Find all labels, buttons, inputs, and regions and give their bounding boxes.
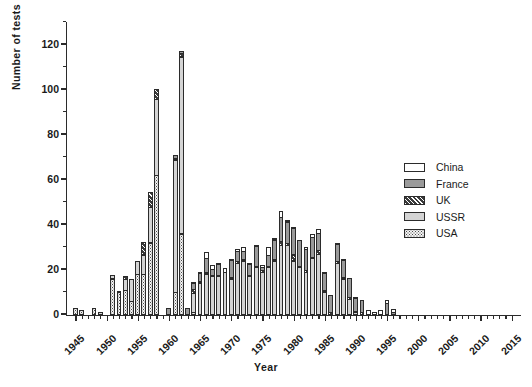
legend-label: China bbox=[436, 161, 463, 173]
x-tick-minor bbox=[300, 316, 301, 319]
bar-segment-ussr bbox=[129, 279, 134, 302]
x-tick-minor bbox=[94, 316, 95, 319]
bar-segment-ussr bbox=[247, 276, 252, 314]
legend-item-usa[interactable]: USA bbox=[404, 225, 522, 242]
x-tick-minor bbox=[468, 316, 469, 319]
bar-stack bbox=[254, 243, 259, 315]
bar-segment-ussr bbox=[291, 261, 296, 315]
legend-item-uk[interactable]: UK bbox=[404, 192, 522, 209]
bar-stack bbox=[241, 245, 246, 315]
x-tick-minor bbox=[462, 316, 463, 319]
bar-segment-france bbox=[335, 244, 340, 262]
bar-segment-uk bbox=[328, 312, 333, 314]
x-tick-minor bbox=[244, 316, 245, 319]
bar-stack bbox=[385, 299, 390, 315]
legend-label: France bbox=[436, 178, 469, 190]
x-tick-minor bbox=[82, 316, 83, 319]
bar-segment-ussr bbox=[191, 293, 196, 313]
bar-stack bbox=[335, 240, 340, 314]
legend-item-ussr[interactable]: USSR bbox=[404, 209, 522, 226]
x-tick-minor bbox=[312, 316, 313, 319]
bar-stack bbox=[279, 209, 284, 315]
x-tick-minor bbox=[456, 316, 457, 319]
x-tick-label: 1990 bbox=[342, 332, 367, 357]
bar-segment-ussr bbox=[279, 245, 284, 315]
bar-stack bbox=[310, 231, 315, 314]
bar-segment-ussr bbox=[254, 267, 259, 314]
bar-segment-ussr bbox=[335, 263, 340, 315]
x-tick-major bbox=[480, 316, 481, 321]
x-tick-label: 1995 bbox=[373, 332, 398, 357]
x-tick-minor bbox=[225, 316, 226, 319]
x-tick-major bbox=[169, 316, 170, 321]
y-tick-label: 120 bbox=[41, 39, 59, 50]
legend-swatch-france bbox=[404, 179, 425, 188]
bar-segment-france bbox=[229, 260, 234, 278]
chart-legend: ChinaFranceUKUSSRUSA bbox=[404, 159, 522, 242]
bar-segment-ussr bbox=[322, 292, 327, 315]
bar-stack bbox=[148, 191, 153, 315]
legend-swatch-ussr bbox=[404, 212, 425, 221]
bar-segment-usa bbox=[154, 175, 159, 315]
bar-segment-france bbox=[185, 308, 190, 315]
x-tick-major bbox=[231, 316, 232, 321]
bar-stack bbox=[191, 279, 196, 315]
bar-segment-usa bbox=[148, 243, 153, 315]
bar-stack bbox=[204, 249, 209, 314]
x-tick-minor bbox=[412, 316, 413, 319]
y-tick-minor bbox=[63, 66, 66, 67]
y-tick-major bbox=[61, 313, 66, 314]
bar-stack bbox=[141, 240, 146, 314]
bar-segment-ussr bbox=[210, 276, 215, 314]
x-tick-minor bbox=[331, 316, 332, 319]
bar-segment-usa bbox=[129, 301, 134, 315]
bar-segment-ussr bbox=[260, 272, 265, 315]
x-tick-minor bbox=[281, 316, 282, 319]
y-tick-major bbox=[61, 223, 66, 224]
bar-segment-china bbox=[372, 312, 377, 314]
x-tick-minor bbox=[250, 316, 251, 319]
bar-stack bbox=[235, 247, 240, 315]
bar-stack bbox=[372, 312, 377, 314]
x-tick-major bbox=[294, 316, 295, 321]
bar-segment-ussr bbox=[341, 279, 346, 315]
bar-segment-ussr bbox=[148, 207, 153, 243]
bar-segment-france bbox=[310, 237, 315, 257]
bar-segment-usa bbox=[110, 279, 115, 315]
legend-item-china[interactable]: China bbox=[404, 159, 522, 176]
x-tick-minor bbox=[368, 316, 369, 319]
x-tick-minor bbox=[343, 316, 344, 319]
bar-segment-ussr bbox=[204, 274, 209, 315]
x-tick-minor bbox=[393, 316, 394, 319]
x-tick-minor bbox=[269, 316, 270, 319]
bar-segment-ussr bbox=[316, 254, 321, 315]
bar-segment-france bbox=[297, 240, 302, 267]
legend-item-france[interactable]: France bbox=[404, 176, 522, 193]
x-tick-minor bbox=[156, 316, 157, 319]
y-tick-minor bbox=[63, 246, 66, 247]
x-tick-label: 1955 bbox=[124, 332, 149, 357]
y-tick-minor bbox=[63, 291, 66, 292]
x-tick-minor bbox=[125, 316, 126, 319]
bar-stack bbox=[229, 256, 234, 315]
x-tick-minor bbox=[499, 316, 500, 319]
x-tick-minor bbox=[375, 316, 376, 319]
x-tick-label: 1980 bbox=[280, 332, 305, 357]
x-tick-major bbox=[449, 316, 450, 321]
bar-stack bbox=[123, 274, 128, 315]
bar-stack bbox=[98, 312, 103, 314]
x-tick-minor bbox=[350, 316, 351, 319]
bar-stack bbox=[360, 299, 365, 315]
x-tick-minor bbox=[256, 316, 257, 319]
x-tick-minor bbox=[100, 316, 101, 319]
x-tick-minor bbox=[287, 316, 288, 319]
x-tick-major bbox=[356, 316, 357, 321]
x-tick-minor bbox=[212, 316, 213, 319]
x-tick-minor bbox=[399, 316, 400, 319]
bar-stack bbox=[216, 261, 221, 315]
chart-figure: Number of tests Year 020406080100120 194… bbox=[0, 0, 532, 387]
bar-segment-ussr bbox=[135, 261, 140, 275]
x-tick-minor bbox=[424, 316, 425, 319]
bar-segment-ussr bbox=[141, 255, 146, 275]
bar-segment-ussr bbox=[304, 272, 309, 315]
